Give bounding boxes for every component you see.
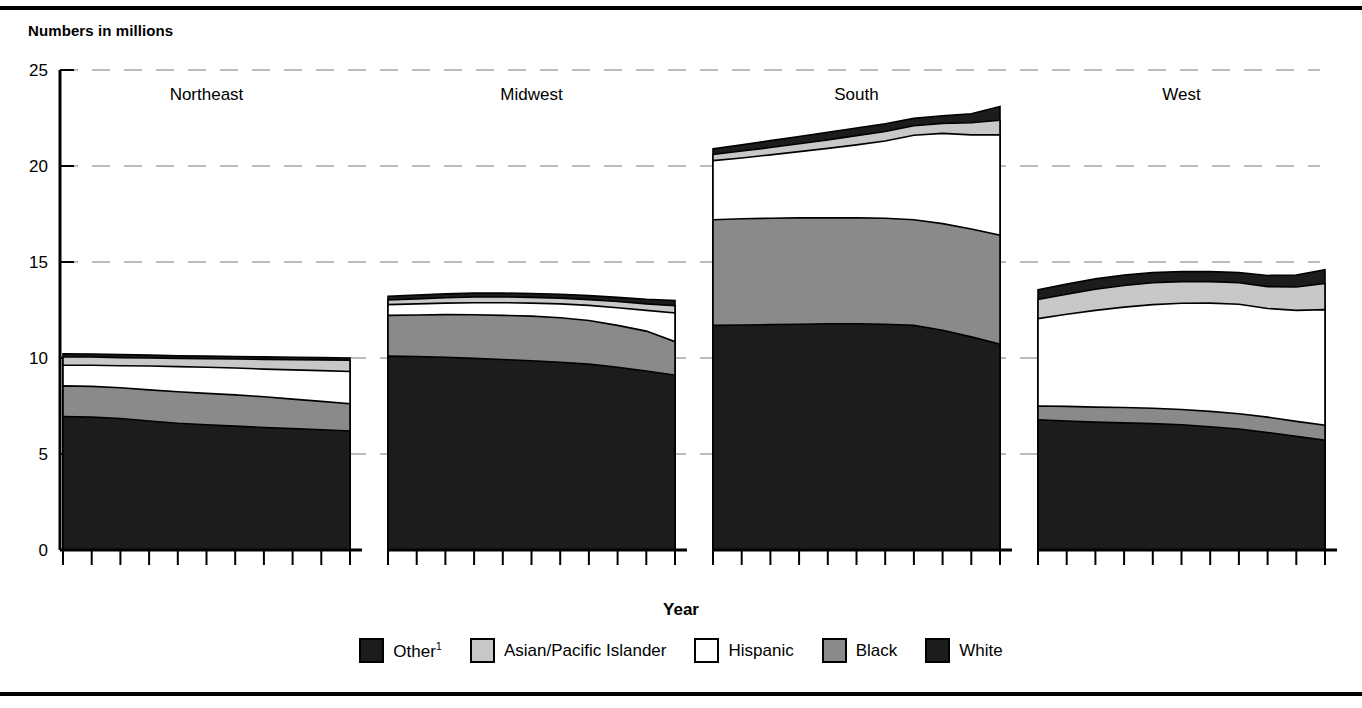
legend-item-black[interactable]: Black [822,638,898,663]
y-tick-label-5: 5 [39,445,48,464]
y-tick-label-0: 0 [39,541,48,560]
chart-legend: Other1Asian/Pacific IslanderHispanicBlac… [0,638,1362,663]
x-tick-label-northeast-end: 2010 [318,573,356,575]
area-midwest-white [388,356,675,550]
panel-title-west: West [1162,85,1201,104]
y-tick-label-20: 20 [29,157,48,176]
legend-swatch-black [822,638,847,663]
legend-label-asian-pacific-islander: Asian/Pacific Islander [504,641,667,661]
legend-swatch-asian-pacific-islander [470,638,495,663]
legend-swatch-other [359,638,384,663]
bottom-divider-rule [0,692,1362,696]
x-tick-label-northeast-start: 2000 [63,573,101,575]
panel-northeast [63,354,350,550]
panel-title-midwest: Midwest [500,85,563,104]
legend-item-other[interactable]: Other1 [359,638,442,663]
legend-swatch-white [925,638,950,663]
area-south-white [713,324,1000,550]
y-tick-label-10: 10 [29,349,48,368]
legend-label-hispanic: Hispanic [728,641,793,661]
x-tick-label-midwest-end: 2010 [643,573,681,575]
legend-footnote-marker: 1 [436,640,442,652]
panel-midwest [388,293,675,550]
legend-label-black: Black [856,641,898,661]
legend-item-white[interactable]: White [925,638,1002,663]
panel-title-northeast: Northeast [170,85,244,104]
x-tick-label-south-start: 2000 [713,573,751,575]
area-west-white [1038,420,1325,550]
y-tick-label-25: 25 [29,61,48,80]
y-tick-label-15: 15 [29,253,48,272]
chart-subtitle: Numbers in millions [28,22,173,39]
legend-item-asian-pacific-islander[interactable]: Asian/Pacific Islander [470,638,667,663]
legend-item-hispanic[interactable]: Hispanic [694,638,793,663]
x-tick-label-south-end: 2010 [968,573,1006,575]
x-tick-label-west-start: 2000 [1038,573,1076,575]
legend-label-white: White [959,641,1002,661]
stacked-area-chart: 0510152025Northeast20002010Midwest200020… [0,55,1362,575]
legend-swatch-hispanic [694,638,719,663]
top-divider-rule [0,6,1362,10]
x-tick-label-midwest-start: 2000 [388,573,426,575]
x-tick-label-west-end: 2010 [1293,573,1331,575]
x-axis-title: Year [0,600,1362,620]
panel-south [713,106,1000,550]
area-northeast-white [63,417,350,550]
chart-plot-area: 0510152025Northeast20002010Midwest200020… [0,55,1362,575]
legend-label-other: Other1 [393,640,442,662]
panel-west [1038,270,1325,550]
panel-title-south: South [834,85,878,104]
